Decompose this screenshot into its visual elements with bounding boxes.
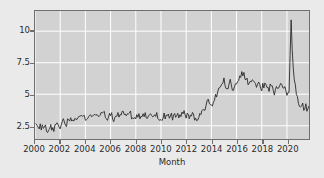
x-axis-tick-mark bbox=[212, 140, 213, 144]
x-axis-tick-mark bbox=[237, 140, 238, 144]
x-axis-tick-label: 2010 bbox=[150, 145, 172, 154]
x-axis-tick-label: 2014 bbox=[201, 145, 223, 154]
x-axis-tick-mark bbox=[186, 140, 187, 144]
x-axis-tick-mark bbox=[34, 140, 35, 144]
x-axis-tick-label: 2006 bbox=[99, 145, 121, 154]
x-axis-tick-label: 2008 bbox=[125, 145, 147, 154]
x-axis-tick-mark bbox=[110, 140, 111, 144]
x-axis-tick-mark bbox=[136, 140, 137, 144]
chart-figure: 2.557.510 200020022004200620082010201220… bbox=[0, 0, 324, 178]
x-axis-title: Month bbox=[34, 158, 310, 167]
x-axis-tick-label: 2016 bbox=[226, 145, 248, 154]
x-axis-tick-mark bbox=[262, 140, 263, 144]
x-axis-tick-mark bbox=[288, 140, 289, 144]
x-axis-tick-mark bbox=[85, 140, 86, 144]
x-axis-tick-label: 2000 bbox=[23, 145, 45, 154]
x-axis-tick-mark bbox=[161, 140, 162, 144]
x-axis-tick-label: 2020 bbox=[277, 145, 299, 154]
x-axis-tick-label: 2004 bbox=[74, 145, 96, 154]
x-axis-tick-label: 2018 bbox=[252, 145, 274, 154]
x-axis-tick-label: 2002 bbox=[49, 145, 71, 154]
x-axis-tick-mark bbox=[59, 140, 60, 144]
x-axis-tick-label: 2012 bbox=[175, 145, 197, 154]
x-axis-tick-labels: 2000200220042006200820102012201420162018… bbox=[0, 0, 324, 178]
